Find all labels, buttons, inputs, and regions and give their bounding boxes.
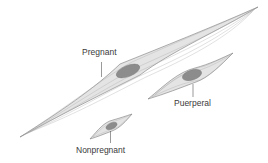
nonpregnant-cell [90,114,132,143]
pregnant-cell [20,7,258,137]
nonpregnant-label: Nonpregnant [76,145,125,155]
muscle-cell-diagram: Pregnant Puerperal Nonpregnant [0,0,268,163]
puerperal-label: Puerperal [174,98,211,108]
pregnant-label: Pregnant [82,47,117,57]
diagram-canvas [0,0,268,163]
